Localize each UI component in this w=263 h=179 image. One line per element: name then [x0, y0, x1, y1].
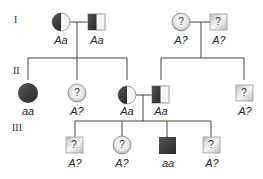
genotype-I2: Aa [82, 34, 112, 46]
genotype-II2: A? [62, 105, 92, 117]
unknown-mark-III2: ? [114, 137, 130, 153]
generation-label-II: II [13, 65, 20, 76]
unknown-mark-I4: ? [210, 14, 226, 30]
genotype-II3: Aa [112, 105, 142, 117]
genotype-III2: A? [107, 157, 137, 169]
genotype-II5: A? [230, 105, 260, 117]
generation-label-III: III [12, 122, 22, 133]
unknown-mark-II5: ? [236, 85, 252, 101]
individual-II1 [18, 83, 38, 103]
unknown-mark-III1: ? [66, 137, 82, 153]
genotype-III3: aa [153, 157, 183, 169]
genotype-II4: Aa [146, 105, 176, 117]
unknown-mark-II2: ? [69, 85, 85, 101]
unknown-mark-I3: ? [173, 14, 189, 30]
genotype-III1: A? [60, 157, 90, 169]
individual-II4 [152, 86, 169, 103]
generation-label-I: I [14, 14, 17, 25]
individual-I2 [88, 14, 105, 30]
genotype-I1: Aa [46, 34, 76, 46]
genotype-II1: aa [13, 105, 43, 117]
genotype-I4: A? [204, 34, 234, 46]
individual-III3 [159, 137, 176, 154]
unknown-mark-III4: ? [203, 137, 219, 153]
individual-I1 [52, 13, 70, 31]
genotype-III4: A? [197, 157, 227, 169]
individual-II3 [118, 86, 136, 104]
genotype-I3: A? [166, 34, 196, 46]
